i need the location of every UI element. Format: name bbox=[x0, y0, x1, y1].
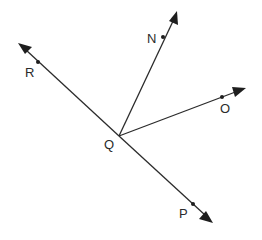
point-p bbox=[191, 202, 195, 206]
arrowhead-icon bbox=[199, 211, 213, 223]
arrowhead-icon bbox=[169, 11, 178, 25]
point-o bbox=[220, 95, 224, 99]
arrowhead-icon bbox=[18, 43, 32, 54]
point-n bbox=[161, 35, 165, 39]
label-n: N bbox=[147, 31, 156, 46]
ray-qr: R bbox=[18, 43, 119, 136]
label-r: R bbox=[25, 65, 34, 80]
label-q: Q bbox=[104, 137, 114, 152]
label-o: O bbox=[220, 101, 230, 116]
label-p: P bbox=[179, 206, 188, 221]
geometry-diagram: R N O P Q bbox=[0, 0, 262, 240]
point-r bbox=[36, 60, 40, 64]
ray-qp: P bbox=[119, 136, 213, 223]
arrowhead-icon bbox=[232, 87, 246, 97]
